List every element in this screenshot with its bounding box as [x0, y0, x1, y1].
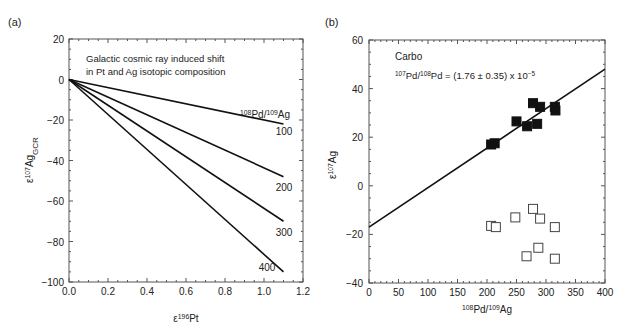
data-point-filled	[536, 102, 545, 111]
series-line-100	[69, 80, 284, 125]
y-tick-label: −40	[47, 156, 64, 167]
panel-label: (b)	[325, 16, 338, 28]
x-tick-label: 0.4	[140, 286, 154, 297]
x-axis-label: 108Pd/109Ag	[462, 304, 512, 316]
data-point-filled	[523, 122, 532, 131]
x-tick-label: 0.0	[62, 286, 76, 297]
panel-a: (a)0.00.20.40.60.81.01.2200−20−40−60−80−…	[8, 16, 310, 324]
x-tick-label: 0.2	[101, 286, 115, 297]
series-line-200	[69, 80, 284, 177]
data-point-open	[491, 223, 500, 232]
x-tick-label: 0.8	[218, 286, 232, 297]
x-tick-label: 100	[420, 287, 437, 298]
series-label: 200	[276, 182, 293, 193]
annotation-line-2: in Pt and Ag isotopic composition	[86, 66, 225, 77]
panel-label: (a)	[8, 16, 21, 28]
chart-canvas: (a)0.00.20.40.60.81.01.2200−20−40−60−80−…	[0, 0, 633, 332]
isochron-annotation: 107Pd/108Pd = (1.76 ± 0.35) x 10−5	[395, 70, 535, 82]
y-tick-label: −80	[47, 237, 64, 248]
y-tick-label: −20	[47, 115, 64, 126]
data-point-open	[550, 254, 559, 263]
series-label: 400	[259, 262, 276, 273]
legend-title: 108Pd/109Ag	[240, 109, 290, 121]
data-point-open	[511, 213, 520, 222]
x-tick-label: 200	[479, 287, 496, 298]
y-axis-label: ε107Ag	[327, 151, 339, 179]
y-tick-label: 20	[53, 34, 65, 45]
data-point-open	[529, 204, 538, 213]
x-tick-label: 0.6	[179, 286, 193, 297]
y-tick-label: −20	[346, 229, 363, 240]
x-tick-label: 50	[393, 287, 405, 298]
data-point-open	[550, 223, 559, 232]
y-tick-label: −40	[346, 278, 363, 289]
x-tick-label: 1.0	[257, 286, 271, 297]
panel-b: (b)0501001502002503003504006040200−20−40…	[325, 16, 614, 315]
sample-name: Carbo	[395, 51, 423, 62]
y-tick-label: −60	[47, 196, 64, 207]
y-tick-label: 0	[357, 181, 363, 192]
y-tick-label: −100	[41, 277, 64, 288]
annotation-line-1: Galactic cosmic ray induced shift	[86, 53, 225, 64]
series-label: 100	[276, 126, 293, 137]
series-label: 300	[276, 227, 293, 238]
data-point-open	[534, 243, 543, 252]
figure: (a)0.00.20.40.60.81.01.2200−20−40−60−80−…	[0, 0, 633, 332]
y-tick-label: 60	[352, 35, 364, 46]
x-tick-label: 150	[449, 287, 466, 298]
x-tick-label: 0	[366, 287, 372, 298]
y-tick-label: 40	[352, 84, 364, 95]
data-point-filled	[533, 119, 542, 128]
x-tick-label: 300	[538, 287, 555, 298]
data-point-filled	[490, 139, 499, 148]
data-point-open	[536, 214, 545, 223]
data-point-filled	[512, 117, 521, 126]
series-line-300	[69, 80, 284, 222]
data-point-open	[522, 252, 531, 261]
y-axis-label: ε107AgGCR	[24, 137, 40, 183]
x-tick-label: 1.2	[296, 286, 310, 297]
x-tick-label: 350	[567, 287, 584, 298]
x-tick-label: 400	[597, 287, 614, 298]
data-point-filled	[551, 106, 560, 115]
x-axis-label: ε196Pt	[173, 313, 198, 325]
y-tick-label: 0	[58, 75, 64, 86]
x-tick-label: 250	[508, 287, 525, 298]
y-tick-label: 20	[352, 132, 364, 143]
